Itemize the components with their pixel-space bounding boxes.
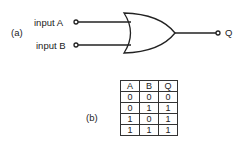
input-b-terminal (74, 43, 78, 47)
header-a: A (121, 81, 140, 92)
input-a-terminal (74, 20, 78, 24)
or-gate-diagram (0, 0, 241, 75)
cell: 0 (140, 92, 159, 103)
table-row: 0 1 1 (121, 103, 178, 114)
or-gate-icon (124, 13, 175, 53)
cell: 1 (159, 103, 178, 114)
cell: 0 (140, 114, 159, 125)
cell: 1 (121, 114, 140, 125)
cell: 0 (159, 92, 178, 103)
output-q-terminal (216, 31, 220, 35)
cell: 0 (121, 92, 140, 103)
cell: 1 (140, 125, 159, 136)
cell: 0 (121, 103, 140, 114)
table-header-row: A B Q (121, 81, 178, 92)
table-row: 1 1 1 (121, 125, 178, 136)
cell: 1 (140, 103, 159, 114)
table-row: 0 0 0 (121, 92, 178, 103)
cell: 1 (159, 114, 178, 125)
header-b: B (140, 81, 159, 92)
part-b-label: (b) (86, 112, 98, 123)
table-row: 1 0 1 (121, 114, 178, 125)
cell: 1 (159, 125, 178, 136)
header-q: Q (159, 81, 178, 92)
cell: 1 (121, 125, 140, 136)
truth-table: A B Q 0 0 0 0 1 1 1 0 1 1 1 1 (120, 80, 178, 136)
